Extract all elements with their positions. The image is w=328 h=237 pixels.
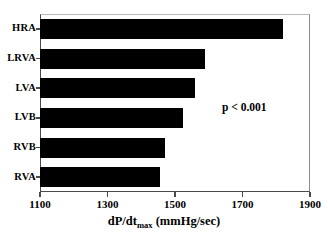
xtick-mark — [242, 192, 244, 197]
bar-lva — [40, 78, 195, 98]
xtick-label-1900: 1900 — [299, 199, 321, 210]
bar-chart-figure: HRA LRVA LVA LVB RVB RVA 1100 1300 1500 … — [0, 0, 328, 237]
ytick-mark — [36, 117, 40, 119]
ytick-mark — [36, 87, 40, 89]
xtick-mark — [309, 192, 311, 197]
xtick-label-1100: 1100 — [29, 199, 50, 210]
bar-row — [40, 49, 310, 69]
xtick-mark — [174, 192, 176, 197]
x-axis-title: dP/dtmax (mmHg/sec) — [0, 215, 328, 228]
x-axis-title-pre: dP/dt — [108, 214, 137, 228]
bar-hra — [40, 19, 283, 39]
bar-rva — [40, 167, 160, 187]
bar-lrva — [40, 49, 205, 69]
pvalue-annotation: p < 0.001 — [222, 102, 267, 114]
bar-row — [40, 138, 310, 158]
xtick-label-1700: 1700 — [232, 199, 254, 210]
bar-row — [40, 108, 310, 128]
xtick-mark — [39, 192, 41, 197]
plot-area — [40, 14, 310, 192]
ytick-label-rvb: RVB — [14, 142, 36, 153]
ytick-label-lva: LVA — [16, 83, 36, 94]
ytick-label-lvb: LVB — [15, 112, 36, 123]
ytick-mark — [36, 147, 40, 149]
ytick-mark — [36, 176, 40, 178]
bar-rvb — [40, 138, 165, 158]
ytick-label-lrva: LRVA — [7, 53, 36, 64]
bar-row — [40, 19, 310, 39]
ytick-label-rva: RVA — [14, 172, 36, 183]
xtick-mark — [107, 192, 109, 197]
xtick-label-1300: 1300 — [97, 199, 119, 210]
ytick-label-hra: HRA — [12, 23, 36, 34]
ytick-mark — [36, 58, 40, 60]
bar-row — [40, 167, 310, 187]
x-axis-title-post: (mmHg/sec) — [153, 214, 221, 228]
ytick-mark — [36, 28, 40, 30]
xtick-label-1500: 1500 — [164, 199, 186, 210]
bar-row — [40, 78, 310, 98]
x-axis-title-subscript: max — [137, 220, 153, 230]
bar-lvb — [40, 108, 183, 128]
